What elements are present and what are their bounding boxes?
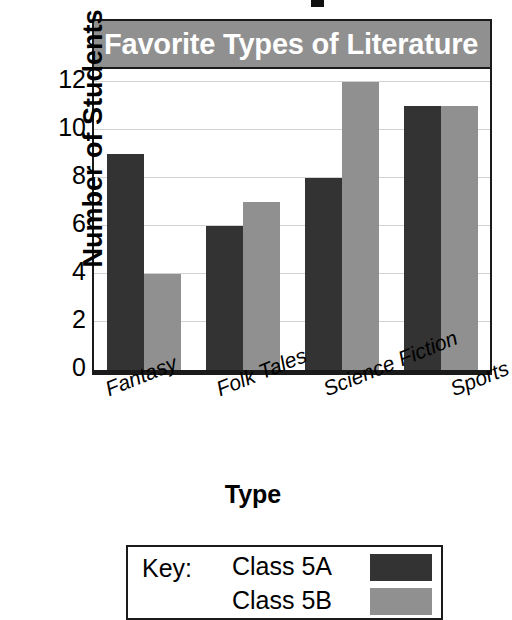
bar — [342, 82, 379, 370]
y-tick-label: 8 — [46, 163, 86, 188]
chart-title-band: Favorite Types of Literature — [94, 21, 490, 69]
gridline — [94, 81, 490, 82]
y-tick-label: 12 — [46, 67, 86, 92]
legend-swatch — [370, 554, 432, 581]
bar — [107, 154, 144, 370]
y-tick-label: 4 — [46, 259, 86, 284]
bar — [206, 226, 243, 370]
y-tick-label: 6 — [46, 211, 86, 236]
legend-swatch — [370, 588, 432, 615]
legend-item-label: Class 5A — [232, 552, 332, 581]
bar — [243, 202, 280, 370]
legend: Key: Class 5AClass 5B — [126, 545, 443, 620]
legend-item: Class 5B — [232, 586, 432, 619]
legend-item-label: Class 5B — [232, 586, 332, 615]
y-tick-label: 0 — [46, 355, 86, 380]
y-tick-label: 2 — [46, 307, 86, 332]
legend-key-label: Key: — [142, 554, 192, 583]
legend-item: Class 5A — [232, 552, 432, 585]
plot-area — [94, 69, 490, 373]
clipped-text-artifact — [311, 0, 324, 7]
chart-frame: Favorite Types of Literature — [92, 19, 492, 375]
x-axis-title: Type — [0, 480, 506, 509]
y-tick-label: 10 — [46, 115, 86, 140]
chart-title: Favorite Types of Literature — [104, 28, 478, 61]
bar — [305, 178, 342, 370]
bar — [404, 106, 441, 370]
